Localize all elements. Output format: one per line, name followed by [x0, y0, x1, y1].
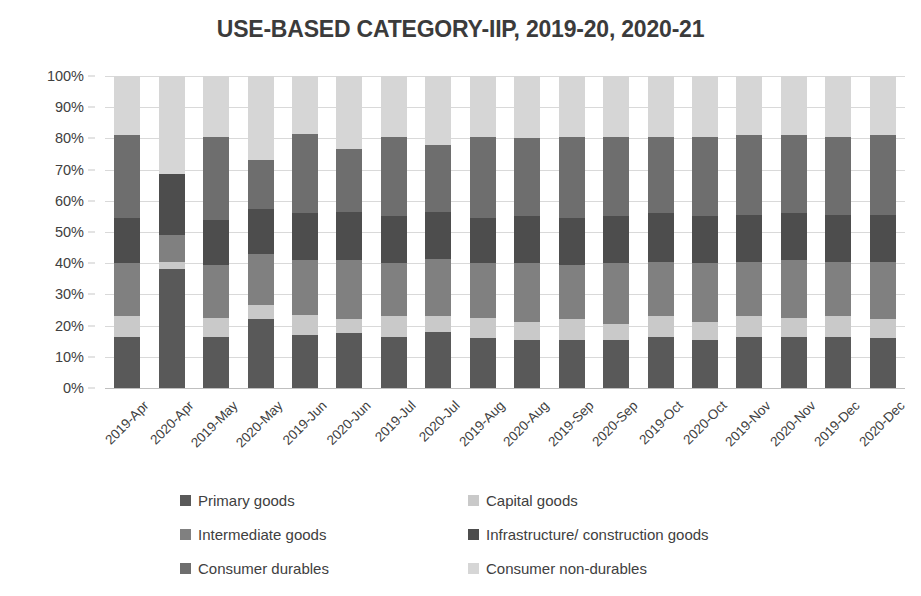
- bar-segment[interactable]: [336, 260, 362, 319]
- stacked-bar[interactable]: [159, 76, 185, 388]
- bar-segment[interactable]: [825, 262, 851, 317]
- stacked-bar[interactable]: [781, 76, 807, 388]
- bar-segment[interactable]: [425, 212, 451, 259]
- bar-segment[interactable]: [203, 318, 229, 337]
- stacked-bar[interactable]: [692, 76, 718, 388]
- bar-slot[interactable]: [549, 76, 593, 388]
- bar-segment[interactable]: [114, 263, 140, 316]
- bar-segment[interactable]: [648, 262, 674, 317]
- bar-segment[interactable]: [248, 209, 274, 254]
- bar-segment[interactable]: [825, 316, 851, 336]
- bar-segment[interactable]: [203, 137, 229, 220]
- bar-segment[interactable]: [648, 337, 674, 388]
- bar-segment[interactable]: [514, 76, 540, 138]
- stacked-bar[interactable]: [381, 76, 407, 388]
- bar-segment[interactable]: [781, 135, 807, 213]
- bar-segment[interactable]: [870, 262, 896, 320]
- bar-segment[interactable]: [648, 316, 674, 336]
- bar-segment[interactable]: [381, 316, 407, 336]
- stacked-bar[interactable]: [114, 76, 140, 388]
- bar-slot[interactable]: [238, 76, 282, 388]
- bar-segment[interactable]: [559, 137, 585, 218]
- bar-slot[interactable]: [327, 76, 371, 388]
- stacked-bar[interactable]: [425, 76, 451, 388]
- stacked-bar[interactable]: [514, 76, 540, 388]
- bar-segment[interactable]: [603, 340, 629, 388]
- bar-segment[interactable]: [159, 76, 185, 174]
- bar-segment[interactable]: [736, 135, 762, 215]
- bar-segment[interactable]: [736, 316, 762, 336]
- bar-segment[interactable]: [159, 262, 185, 270]
- bar-segment[interactable]: [825, 76, 851, 137]
- bar-segment[interactable]: [825, 137, 851, 215]
- bar-segment[interactable]: [425, 259, 451, 317]
- bar-segment[interactable]: [470, 263, 496, 318]
- bar-segment[interactable]: [514, 340, 540, 388]
- bar-segment[interactable]: [159, 174, 185, 235]
- bar-segment[interactable]: [203, 220, 229, 265]
- bar-segment[interactable]: [603, 263, 629, 324]
- bar-slot[interactable]: [505, 76, 549, 388]
- bar-segment[interactable]: [692, 216, 718, 263]
- bar-segment[interactable]: [870, 135, 896, 215]
- bar-slot[interactable]: [727, 76, 771, 388]
- bar-segment[interactable]: [292, 335, 318, 388]
- bar-segment[interactable]: [825, 215, 851, 262]
- bar-segment[interactable]: [381, 337, 407, 388]
- bar-slot[interactable]: [194, 76, 238, 388]
- bar-slot[interactable]: [861, 76, 905, 388]
- bar-segment[interactable]: [336, 319, 362, 333]
- bar-segment[interactable]: [781, 213, 807, 260]
- bar-segment[interactable]: [470, 76, 496, 137]
- bar-slot[interactable]: [105, 76, 149, 388]
- bar-segment[interactable]: [425, 76, 451, 145]
- bar-segment[interactable]: [425, 316, 451, 332]
- bar-segment[interactable]: [114, 76, 140, 135]
- bar-segment[interactable]: [514, 263, 540, 322]
- bar-slot[interactable]: [283, 76, 327, 388]
- bar-slot[interactable]: [683, 76, 727, 388]
- stacked-bar[interactable]: [336, 76, 362, 388]
- bar-segment[interactable]: [736, 76, 762, 135]
- stacked-bar[interactable]: [736, 76, 762, 388]
- stacked-bar[interactable]: [470, 76, 496, 388]
- bar-segment[interactable]: [292, 213, 318, 260]
- bar-segment[interactable]: [603, 216, 629, 263]
- bar-segment[interactable]: [336, 149, 362, 211]
- bar-segment[interactable]: [114, 135, 140, 218]
- stacked-bar[interactable]: [559, 76, 585, 388]
- bar-segment[interactable]: [114, 337, 140, 388]
- stacked-bar[interactable]: [292, 76, 318, 388]
- bar-segment[interactable]: [692, 340, 718, 388]
- bar-segment[interactable]: [381, 216, 407, 263]
- bar-segment[interactable]: [559, 265, 585, 320]
- bar-segment[interactable]: [114, 316, 140, 336]
- bar-slot[interactable]: [594, 76, 638, 388]
- bar-segment[interactable]: [292, 260, 318, 315]
- stacked-bar[interactable]: [648, 76, 674, 388]
- stacked-bar[interactable]: [603, 76, 629, 388]
- bar-segment[interactable]: [248, 160, 274, 208]
- bar-segment[interactable]: [559, 319, 585, 339]
- bar-segment[interactable]: [648, 137, 674, 213]
- bar-segment[interactable]: [336, 212, 362, 260]
- bar-segment[interactable]: [514, 216, 540, 263]
- bar-segment[interactable]: [248, 76, 274, 160]
- legend-item[interactable]: Primary goods: [180, 492, 295, 509]
- legend-item[interactable]: Capital goods: [468, 492, 578, 509]
- bar-slot[interactable]: [638, 76, 682, 388]
- bar-segment[interactable]: [470, 137, 496, 218]
- bar-segment[interactable]: [692, 137, 718, 217]
- bar-segment[interactable]: [692, 76, 718, 137]
- bar-segment[interactable]: [470, 338, 496, 388]
- bar-segment[interactable]: [381, 137, 407, 217]
- bar-segment[interactable]: [870, 319, 896, 338]
- bar-segment[interactable]: [781, 76, 807, 135]
- bar-segment[interactable]: [692, 322, 718, 339]
- bar-segment[interactable]: [781, 318, 807, 337]
- bar-segment[interactable]: [381, 76, 407, 137]
- legend-item[interactable]: Intermediate goods: [180, 526, 326, 543]
- bar-segment[interactable]: [648, 76, 674, 137]
- legend-item[interactable]: Consumer non-durables: [468, 560, 647, 577]
- bar-segment[interactable]: [470, 218, 496, 263]
